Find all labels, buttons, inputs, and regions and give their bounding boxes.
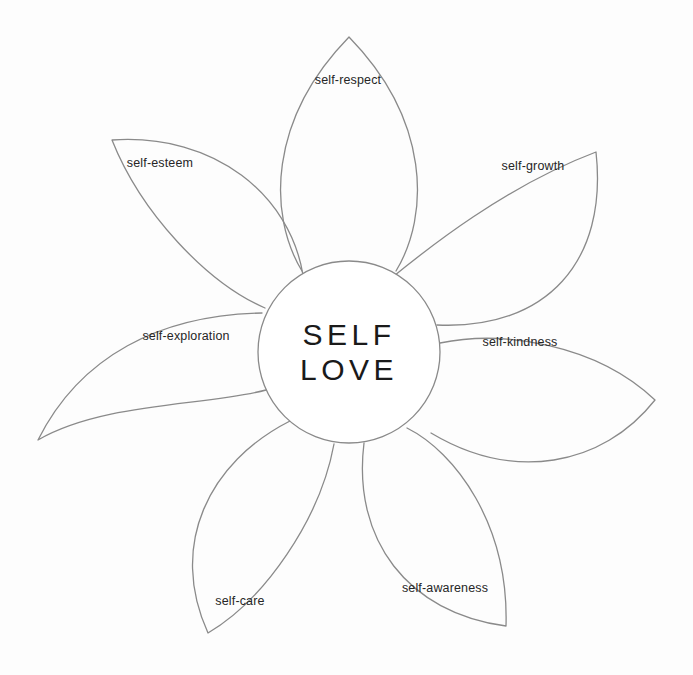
core-label: SELF LOVE (300, 317, 398, 387)
petal-label-self-awareness[interactable]: self-awareness (402, 581, 488, 595)
petal-label-self-respect[interactable]: self-respect (315, 73, 381, 87)
petal-label-self-esteem[interactable]: self-esteem (127, 156, 193, 170)
petal-label-self-kindness[interactable]: self-kindness (483, 335, 558, 349)
petal-self-awareness[interactable] (362, 428, 506, 626)
diagram-canvas: SELF LOVE self-respect self-growth self-… (0, 0, 693, 675)
core-label-line-2: LOVE (300, 352, 398, 387)
petal-label-self-growth[interactable]: self-growth (502, 159, 565, 173)
petal-label-self-care[interactable]: self-care (215, 594, 264, 608)
petal-label-self-exploration[interactable]: self-exploration (142, 329, 229, 343)
core-label-line-1: SELF (300, 317, 398, 352)
petal-self-kindness[interactable] (431, 338, 655, 461)
